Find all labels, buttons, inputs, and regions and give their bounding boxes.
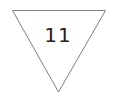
inverted-triangle-shape — [0, 0, 114, 101]
triangle-label: 11 — [38, 22, 78, 48]
